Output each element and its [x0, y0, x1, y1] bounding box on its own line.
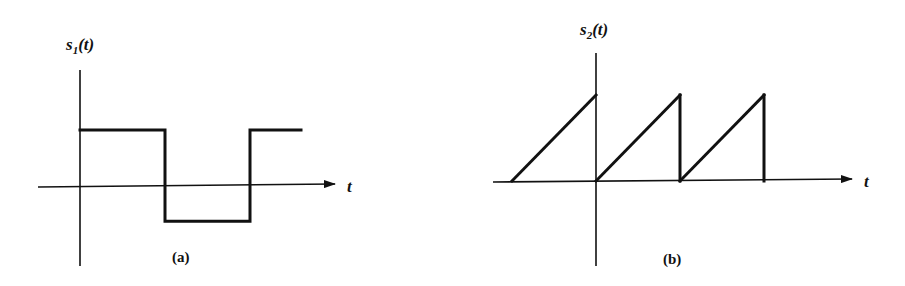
- panel-a-caption: (a): [172, 249, 190, 266]
- panel-a: s1(t) t (a): [38, 35, 353, 266]
- panel-b-caption: (b): [663, 251, 681, 268]
- panel-b-x-axis: [493, 179, 852, 182]
- panel-b-waveform: [512, 95, 764, 181]
- square-wave-path: [80, 130, 301, 221]
- panel-a-x-axis: [38, 184, 335, 187]
- panel-a-xlabel: t: [347, 177, 353, 196]
- panel-a-waveform: [80, 130, 301, 221]
- panel-b-xlabel: t: [864, 172, 870, 191]
- figure: s1(t) t (a) s2(t) t (b): [0, 0, 905, 286]
- sawtooth-ramp: [680, 95, 764, 181]
- sawtooth-ramp: [596, 95, 680, 181]
- sawtooth-ramp: [512, 95, 596, 181]
- panel-a-ylabel: s1(t): [65, 35, 94, 56]
- panel-b: s2(t) t (b): [493, 20, 870, 268]
- panel-b-ylabel: s2(t): [579, 20, 608, 41]
